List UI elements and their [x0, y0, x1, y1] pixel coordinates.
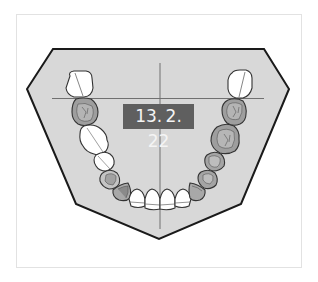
- tooth-right-central-incisor[interactable]: [160, 189, 175, 210]
- tooth-left-second-premolar[interactable]: [94, 152, 114, 171]
- tooth-right-second-molar[interactable]: [222, 99, 246, 126]
- tooth-left-central-incisor[interactable]: [145, 189, 160, 210]
- tooth-right-first-molar[interactable]: [211, 124, 239, 153]
- tooth-left-first-premolar[interactable]: [100, 170, 120, 189]
- tooth-right-third-molar[interactable]: [228, 70, 252, 98]
- date-label: 13. 2. 22: [123, 104, 194, 129]
- tooth-left-second-molar[interactable]: [72, 98, 98, 126]
- tooth-left-third-molar[interactable]: [66, 71, 93, 97]
- tooth-right-first-premolar[interactable]: [198, 170, 217, 188]
- tooth-right-second-premolar[interactable]: [205, 152, 225, 171]
- dental-chart-canvas: 13. 2. 22: [0, 0, 318, 282]
